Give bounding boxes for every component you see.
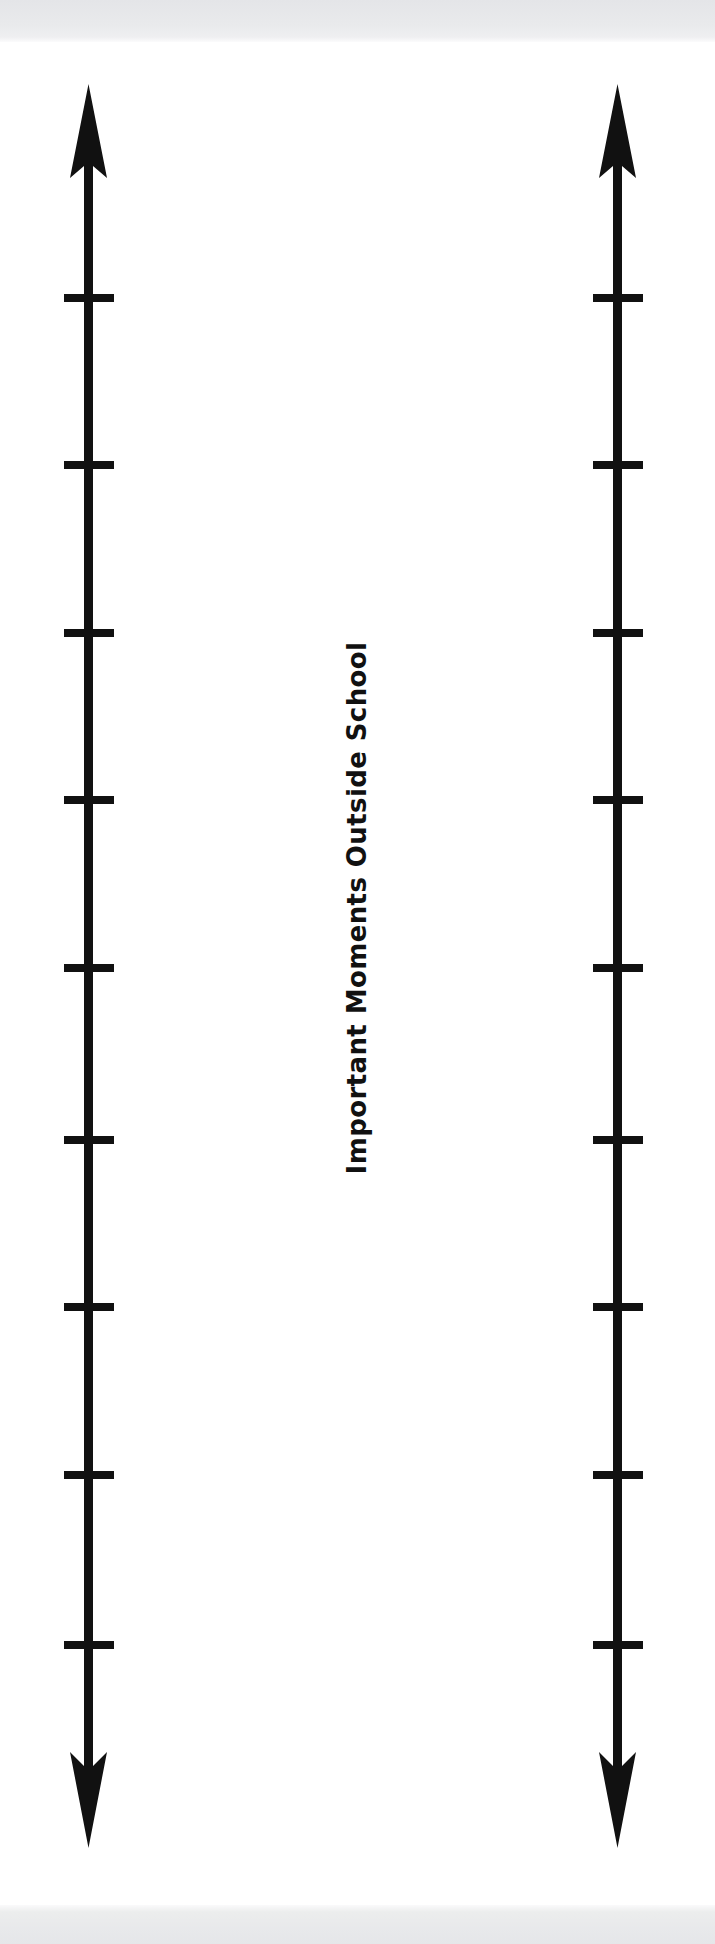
- timeline-left[interactable]: [28, 0, 148, 1944]
- timeline-right-axis-graphic: [557, 0, 677, 1944]
- worksheet-page: Important Moments Outside School: [0, 0, 715, 1944]
- arrowhead-bottom: [70, 1736, 107, 1848]
- tick-mark: [64, 294, 114, 302]
- arrowhead-top: [70, 84, 107, 196]
- tick-mark: [593, 629, 643, 637]
- tick-mark: [593, 964, 643, 972]
- tick-mark: [64, 964, 114, 972]
- axis-shaft: [613, 120, 622, 1780]
- tick-mark: [64, 1641, 114, 1649]
- tick-mark: [64, 629, 114, 637]
- axis-shaft: [84, 120, 93, 1780]
- tick-mark: [64, 1303, 114, 1311]
- tick-mark: [64, 461, 114, 469]
- tick-mark: [64, 796, 114, 804]
- arrowhead-top: [599, 84, 636, 196]
- tick-mark: [593, 1471, 643, 1479]
- tick-mark: [593, 1303, 643, 1311]
- tick-mark: [64, 1471, 114, 1479]
- timeline-left-axis-graphic: [28, 0, 148, 1944]
- tick-mark: [64, 1136, 114, 1144]
- timeline-right[interactable]: [557, 0, 677, 1944]
- tick-mark: [593, 294, 643, 302]
- arrowhead-bottom: [599, 1736, 636, 1848]
- tick-mark: [593, 796, 643, 804]
- tick-mark: [593, 1641, 643, 1649]
- tick-mark: [593, 1136, 643, 1144]
- tick-mark: [593, 461, 643, 469]
